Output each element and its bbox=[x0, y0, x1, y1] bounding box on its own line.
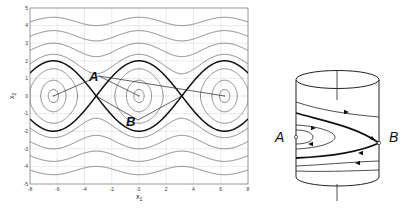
cylinder-bottom-rim bbox=[296, 177, 379, 186]
label-B-saddles: B bbox=[126, 114, 135, 129]
separatrix-lower bbox=[296, 143, 379, 158]
y-tick-label: 4 bbox=[25, 22, 28, 28]
y-axis-label: x2 bbox=[8, 93, 17, 100]
y-tick-label: 2 bbox=[25, 58, 28, 64]
y-tick-label: -5 bbox=[24, 181, 29, 187]
y-tick-label: -4 bbox=[24, 163, 29, 169]
flow-arrow-icon bbox=[358, 151, 363, 155]
y-tick-label: -1 bbox=[24, 110, 29, 116]
y-tick-label: 3 bbox=[25, 40, 28, 46]
y-tick-label: 5 bbox=[25, 5, 28, 11]
x-tick-label: 2 bbox=[165, 186, 168, 192]
x-tick-label: -8 bbox=[28, 186, 33, 192]
y-tick-label: -3 bbox=[24, 146, 29, 152]
y-tick-labels: 543210-1-2-3-4-5 bbox=[24, 5, 29, 187]
pointer-line-A bbox=[99, 76, 225, 96]
rotation-orbit-lower bbox=[296, 161, 379, 166]
equilibrium-B-point bbox=[377, 141, 380, 144]
closed-orbit-outer bbox=[296, 125, 335, 149]
flow-arrow-icon bbox=[311, 126, 316, 130]
cylinder-top-rim bbox=[296, 71, 379, 89]
y-tick-label: -2 bbox=[24, 128, 29, 134]
x-tick-label: 4 bbox=[192, 186, 195, 192]
pointer-line-B bbox=[138, 96, 182, 120]
phase-portrait-chart: -8-6-4-202468 543210-1-2-3-4-5 x1 x2 A B bbox=[0, 0, 260, 215]
equilibrium-A-point bbox=[294, 135, 297, 138]
x-tick-label: -6 bbox=[55, 186, 60, 192]
flow-arrow-icon bbox=[355, 161, 360, 165]
rotation-orbit-bottom bbox=[296, 170, 379, 171]
x-axis-label: x1 bbox=[136, 193, 143, 202]
x-tick-label: 8 bbox=[247, 186, 250, 192]
x-tick-label: 0 bbox=[138, 186, 141, 192]
x-tick-labels: -8-6-4-202468 bbox=[28, 186, 250, 192]
cylinder-label-B: B bbox=[389, 129, 398, 145]
flow-arrow-icon bbox=[308, 142, 313, 146]
rotation-orbit-upper bbox=[296, 102, 379, 117]
y-tick-label: 0 bbox=[25, 93, 28, 99]
x-tick-label: 6 bbox=[219, 186, 222, 192]
x-tick-label: -2 bbox=[110, 186, 115, 192]
separatrix-upper bbox=[296, 113, 379, 143]
y-tick-label: 1 bbox=[25, 75, 28, 81]
x-tick-label: -4 bbox=[82, 186, 87, 192]
cylinder-diagram: A B bbox=[260, 30, 414, 215]
closed-orbit-inner bbox=[296, 130, 313, 144]
label-A-centers: A bbox=[88, 69, 98, 84]
cylinder-label-A: A bbox=[274, 129, 284, 145]
